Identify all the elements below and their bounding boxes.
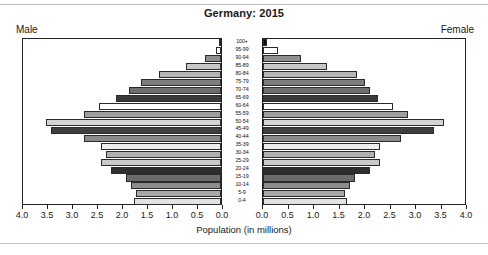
x-tick-mark	[197, 205, 198, 209]
chart-title: Germany: 2015	[0, 7, 488, 19]
x-tick-label: 0.0	[207, 210, 237, 220]
male-bar-90-94	[205, 55, 222, 62]
female-bar-row	[263, 95, 465, 103]
female-bar-60-64	[263, 103, 393, 110]
female-bar-55-59	[263, 111, 408, 118]
female-bar-row	[263, 166, 465, 174]
female-bar-70-74	[263, 87, 370, 94]
age-group-label: 50-54	[222, 118, 262, 126]
male-bar-row	[23, 119, 221, 127]
female-bar-row	[263, 87, 465, 95]
male-side-label: Male	[16, 24, 38, 35]
female-bar-5-9	[263, 190, 345, 197]
female-bar-45-49	[263, 127, 434, 134]
female-bar-95-99	[263, 47, 278, 54]
female-bar-row	[263, 134, 465, 142]
female-bar-row	[263, 39, 465, 47]
female-bar-row	[263, 150, 465, 158]
age-group-label: 75-79	[222, 78, 262, 86]
male-bar-35-39	[101, 143, 221, 150]
male-bar-10-14	[131, 182, 221, 189]
male-bar-row	[23, 79, 221, 87]
female-bar-row	[263, 71, 465, 79]
male-bar-row	[23, 142, 221, 150]
female-bar-row	[263, 47, 465, 55]
male-bar-60-64	[99, 103, 222, 110]
male-bar-row	[23, 103, 221, 111]
male-bar-85-89	[186, 63, 221, 70]
male-bar-row	[23, 158, 221, 166]
male-bar-row	[23, 63, 221, 71]
male-bar-95-99	[216, 47, 221, 54]
x-tick-mark	[390, 205, 391, 209]
x-tick-mark	[172, 205, 173, 209]
male-bar-row	[23, 95, 221, 103]
female-bar-row	[263, 158, 465, 166]
female-side-label: Female	[441, 24, 474, 35]
x-tick-mark	[97, 205, 98, 209]
age-group-label: 0-4	[222, 197, 262, 205]
x-tick-mark	[415, 205, 416, 209]
male-bar-row	[23, 134, 221, 142]
male-bar-row	[23, 111, 221, 119]
age-group-label: 90-94	[222, 54, 262, 62]
female-bar-0-4	[263, 198, 347, 205]
female-bar-50-54	[263, 119, 444, 126]
male-bar-row	[23, 39, 221, 47]
male-bar-100plus	[219, 39, 221, 46]
female-bar-row	[263, 174, 465, 182]
male-bar-70-74	[129, 87, 222, 94]
x-tick-mark	[122, 205, 123, 209]
female-bar-row	[263, 142, 465, 150]
age-group-axis: 100+95-9990-9485-8980-8475-7970-7465-696…	[222, 38, 262, 205]
age-group-label: 45-49	[222, 125, 262, 133]
male-bar-50-54	[46, 119, 221, 126]
x-tick-mark	[222, 205, 223, 209]
age-group-label: 60-64	[222, 102, 262, 110]
female-plot-panel	[262, 38, 466, 205]
female-bar-row	[263, 63, 465, 71]
age-group-label: 40-44	[222, 133, 262, 141]
age-group-label: 5-9	[222, 189, 262, 197]
male-bar-row	[23, 126, 221, 134]
x-tick-mark	[72, 205, 73, 209]
female-bar-100plus	[263, 39, 267, 46]
x-tick-mark	[262, 205, 263, 209]
male-bar-row	[23, 182, 221, 190]
female-bar-20-24	[263, 167, 370, 174]
female-bar-65-69	[263, 95, 378, 102]
age-group-label: 15-19	[222, 173, 262, 181]
age-group-label: 100+	[222, 38, 262, 46]
x-tick-mark	[22, 205, 23, 209]
age-group-label: 70-74	[222, 86, 262, 94]
x-tick-mark	[147, 205, 148, 209]
age-group-label: 20-24	[222, 165, 262, 173]
scan-artifact-top-rule	[0, 4, 488, 5]
female-bar-15-19	[263, 174, 355, 181]
female-bar-30-34	[263, 151, 375, 158]
x-tick-mark	[47, 205, 48, 209]
x-tick-mark	[466, 205, 467, 209]
female-bar-row	[263, 182, 465, 190]
female-bar-row	[263, 190, 465, 198]
age-group-label: 55-59	[222, 110, 262, 118]
male-bar-row	[23, 166, 221, 174]
male-bar-20-24	[111, 167, 221, 174]
female-bar-75-79	[263, 79, 365, 86]
female-bar-25-29	[263, 159, 380, 166]
male-bar-80-84	[159, 71, 222, 78]
female-bar-80-84	[263, 71, 357, 78]
x-tick-label: 4.0	[451, 210, 481, 220]
x-tick-mark	[441, 205, 442, 209]
male-bar-5-9	[136, 190, 221, 197]
female-bar-40-44	[263, 135, 401, 142]
age-group-label: 10-14	[222, 181, 262, 189]
x-tick-mark	[364, 205, 365, 209]
female-bar-group	[263, 39, 465, 204]
female-bar-row	[263, 79, 465, 87]
male-bar-row	[23, 174, 221, 182]
female-bar-row	[263, 126, 465, 134]
female-bar-10-14	[263, 182, 350, 189]
male-bar-75-79	[141, 79, 221, 86]
age-group-label: 85-89	[222, 62, 262, 70]
